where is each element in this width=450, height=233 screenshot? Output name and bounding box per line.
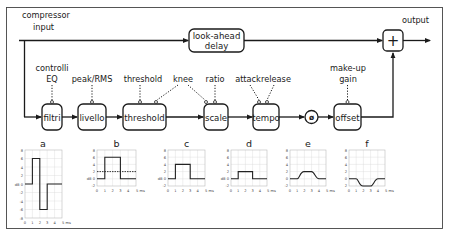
chart-d: d 8 6 4 2 dB 0 -2 012345 ms	[221, 138, 276, 193]
svg-text:5 ms: 5 ms	[205, 189, 214, 193]
chart-a: a 8 6 4 2 dB 0 -2 -4 -6 -8 012345 ms	[15, 138, 71, 225]
svg-text:0: 0	[230, 189, 233, 193]
svg-text:3: 3	[189, 189, 191, 193]
makeup-gain-label-line1: make-up	[330, 63, 366, 73]
svg-text:2: 2	[244, 189, 246, 193]
svg-text:-6: -6	[19, 208, 23, 212]
threshold-label: threshold	[124, 113, 164, 123]
svg-text:4: 4	[377, 189, 380, 193]
attack-control-label: attack	[235, 74, 261, 84]
svg-text:3: 3	[46, 221, 48, 225]
svg-text:2: 2	[286, 170, 288, 174]
svg-text:2: 2	[39, 221, 41, 225]
svg-text:4: 4	[53, 221, 56, 225]
svg-text:4: 4	[93, 163, 96, 167]
svg-text:5 ms: 5 ms	[62, 221, 71, 225]
svg-text:-2: -2	[91, 184, 95, 188]
svg-text:1: 1	[174, 189, 176, 193]
svg-text:8: 8	[21, 149, 24, 153]
svg-text:0: 0	[167, 189, 170, 193]
svg-text:dB 0: dB 0	[87, 177, 96, 181]
svg-text:3: 3	[310, 189, 312, 193]
knee-control-label: knee	[173, 74, 193, 84]
svg-text:-2: -2	[284, 184, 288, 188]
svg-text:8: 8	[286, 149, 289, 153]
svg-text:6: 6	[21, 157, 24, 161]
chart-c: c 8 6 4 2 dB 0 -2 012345 ms	[158, 138, 214, 193]
svg-text:2: 2	[345, 184, 347, 188]
svg-text:5 ms: 5 ms	[136, 189, 145, 193]
svg-text:dB 0: dB 0	[15, 183, 24, 187]
svg-text:-2: -2	[162, 184, 166, 188]
svg-text:2: 2	[345, 170, 347, 174]
svg-text:0: 0	[96, 189, 99, 193]
svg-text:4: 4	[164, 163, 167, 167]
chart-b: b 8 6 4 2 dB 0 -2 012345 ms	[87, 138, 145, 193]
svg-text:1: 1	[104, 189, 106, 193]
svg-text:4: 4	[345, 163, 348, 167]
svg-text:1: 1	[31, 221, 33, 225]
svg-text:1: 1	[296, 189, 298, 193]
svg-text:3: 3	[119, 189, 121, 193]
svg-text:-4: -4	[19, 200, 23, 204]
svg-text:4: 4	[286, 163, 289, 167]
threshold-control-label: threshold	[124, 74, 163, 84]
lookahead-label-line2: delay	[205, 41, 228, 51]
svg-text:0: 0	[286, 177, 289, 181]
svg-text:4: 4	[196, 189, 199, 193]
svg-text:4: 4	[259, 189, 262, 193]
svg-text:6: 6	[164, 156, 167, 160]
svg-text:-2: -2	[225, 184, 229, 188]
livello-label: livello	[79, 113, 104, 123]
svg-text:4: 4	[318, 189, 321, 193]
input-label-line2: input	[33, 22, 55, 32]
svg-text:dB 0: dB 0	[221, 177, 230, 181]
svg-text:3: 3	[251, 189, 253, 193]
svg-text:1: 1	[355, 189, 357, 193]
svg-text:5 ms: 5 ms	[267, 189, 276, 193]
filtri-label: filtri	[43, 113, 60, 123]
svg-text:2: 2	[111, 189, 113, 193]
svg-text:2: 2	[21, 174, 23, 178]
plus-icon: +	[387, 32, 400, 50]
peak-rms-label: peak/RMS	[72, 74, 113, 84]
svg-text:0: 0	[289, 189, 292, 193]
output-label: output	[402, 15, 430, 25]
svg-text:8: 8	[227, 149, 230, 153]
svg-text:0: 0	[24, 221, 27, 225]
svg-text:8: 8	[345, 149, 348, 153]
chart-a-title: a	[40, 138, 46, 149]
svg-text:6: 6	[286, 156, 289, 160]
chart-f-title: f	[365, 138, 369, 149]
svg-text:8: 8	[93, 149, 96, 153]
svg-text:0: 0	[345, 177, 348, 181]
offset-label: offset	[335, 113, 360, 123]
chart-c-title: c	[184, 138, 189, 149]
svg-text:6: 6	[227, 156, 230, 160]
input-label-line1: compressor	[22, 10, 70, 20]
svg-text:4: 4	[127, 189, 130, 193]
svg-text:-2: -2	[19, 191, 23, 195]
svg-text:2: 2	[93, 170, 95, 174]
eq-controls-label-line1: controlli	[36, 63, 69, 73]
chart-f: f 8 6 4 2 0 2 012345 ms	[345, 138, 394, 193]
svg-text:0: 0	[348, 189, 351, 193]
tempo-label: tempo	[252, 113, 280, 123]
svg-text:6: 6	[93, 156, 96, 160]
scale-label: scale	[205, 113, 227, 123]
svg-text:2: 2	[227, 170, 229, 174]
chart-e-title: e	[305, 138, 311, 149]
svg-text:5 ms: 5 ms	[326, 189, 335, 193]
lookahead-label-line1: look-ahead	[193, 31, 241, 41]
svg-text:4: 4	[21, 166, 24, 170]
svg-text:2: 2	[303, 189, 305, 193]
control-connectors	[51, 85, 350, 104]
svg-text:dB 0: dB 0	[158, 177, 167, 181]
svg-text:2: 2	[182, 189, 184, 193]
release-control-label: release	[261, 74, 291, 84]
svg-text:2: 2	[164, 170, 166, 174]
svg-text:4: 4	[227, 163, 230, 167]
svg-text:3: 3	[369, 189, 371, 193]
svg-text:8: 8	[164, 149, 167, 153]
makeup-gain-label-line2: gain	[339, 74, 357, 84]
